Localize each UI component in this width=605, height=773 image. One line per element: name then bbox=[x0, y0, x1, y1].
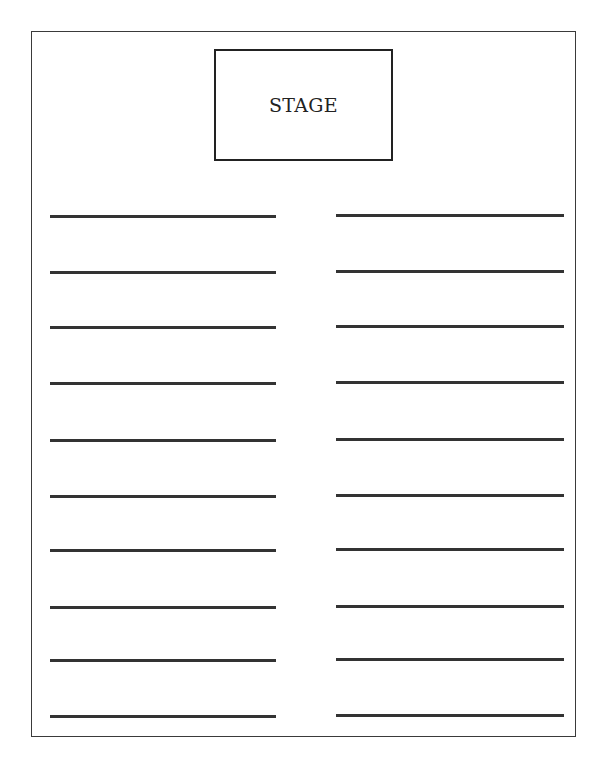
seat-row-left bbox=[50, 215, 276, 218]
seat-row-left bbox=[50, 439, 276, 442]
seat-row-left bbox=[50, 326, 276, 329]
seat-row-right bbox=[336, 270, 564, 273]
seat-row-right bbox=[336, 214, 564, 217]
seat-row-right bbox=[336, 658, 564, 661]
seat-row-right bbox=[336, 605, 564, 608]
seat-row-right bbox=[336, 548, 564, 551]
seat-row-right bbox=[336, 494, 564, 497]
seat-row-left bbox=[50, 271, 276, 274]
stage-label: STAGE bbox=[269, 94, 338, 116]
seat-row-left bbox=[50, 606, 276, 609]
seat-row-left bbox=[50, 549, 276, 552]
seat-row-right bbox=[336, 381, 564, 384]
seat-row-right bbox=[336, 325, 564, 328]
seat-row-right bbox=[336, 714, 564, 717]
seat-row-right bbox=[336, 438, 564, 441]
seat-row-left bbox=[50, 659, 276, 662]
seat-row-left bbox=[50, 382, 276, 385]
stage-box: STAGE bbox=[214, 49, 393, 161]
seat-row-left bbox=[50, 715, 276, 718]
seat-row-left bbox=[50, 495, 276, 498]
